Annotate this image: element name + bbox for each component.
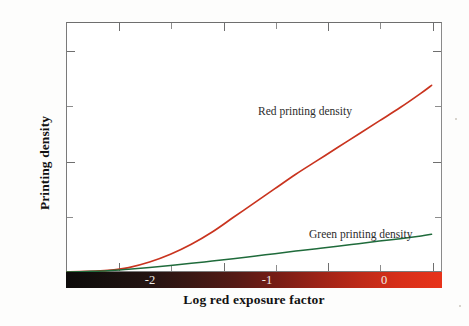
ytick-left-minor [67, 106, 73, 107]
series-annotation-red: Red printing density [258, 105, 352, 117]
chart-figure: 0 1 2 Printing density Red printing dens… [0, 0, 469, 326]
xtick-top-major [119, 23, 120, 31]
xtick-top-major [224, 23, 225, 31]
ytick-left-major [67, 162, 75, 163]
scan-speck [459, 305, 461, 307]
scan-speck [455, 118, 457, 120]
xtick-bottom-minor [380, 265, 381, 271]
xtick-bottom-minor [276, 265, 277, 271]
ytick-left-minor [67, 217, 73, 218]
x-axis-title: Log red exposure factor [66, 292, 442, 308]
xtick-bottom-major [224, 263, 225, 271]
xtick-top-major [328, 23, 329, 31]
xtick-bottom-major [433, 263, 434, 271]
x-axis-gradient-bar: -2 -1 0 1 [66, 272, 442, 288]
ytick-right-minor [435, 106, 441, 107]
xtick-label-m1: -1 [262, 273, 272, 288]
ytick-right-major [433, 51, 441, 52]
xtick-top-major [433, 23, 434, 31]
xtick-label-0: 0 [381, 273, 387, 288]
xtick-bottom-minor [171, 265, 172, 271]
series-annotation-green: Green printing density [309, 228, 412, 240]
xtick-top-minor [380, 23, 381, 29]
xtick-top-minor [171, 23, 172, 29]
ytick-right-major [433, 162, 441, 163]
y-axis-title: Printing density [37, 116, 53, 210]
ytick-right-minor [435, 217, 441, 218]
xtick-top-minor [276, 23, 277, 29]
xtick-label-m2: -2 [145, 273, 155, 288]
xtick-bottom-major [328, 263, 329, 271]
xtick-bottom-major [119, 263, 120, 271]
ytick-left-major [67, 51, 75, 52]
